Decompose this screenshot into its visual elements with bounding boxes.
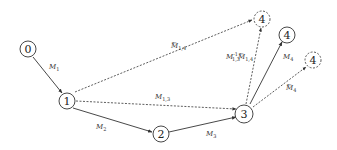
edge-label-m13inv-m14: M-11,3 ~ M1,4 — [225, 50, 253, 62]
svg-text:4: 4 — [284, 29, 291, 42]
edge-label-m13: M1,3 — [154, 93, 170, 102]
edge-3-4a-dashed — [246, 28, 261, 104]
svg-text:M4: M4 — [285, 84, 296, 93]
edge-1-2 — [73, 108, 152, 132]
svg-text:M3: M3 — [205, 130, 216, 139]
svg-text:3: 3 — [241, 108, 248, 121]
edge-label-m4: M4 — [282, 53, 293, 62]
svg-text:M1: M1 — [48, 63, 59, 72]
svg-text:M1,4: M1,4 — [237, 53, 253, 62]
svg-text:M1,3: M1,3 — [154, 93, 170, 102]
svg-text:M2: M2 — [95, 123, 106, 132]
edge-label-m2: M2 — [95, 123, 106, 132]
node-1: 1 — [59, 93, 75, 109]
edge-2-3 — [169, 117, 236, 132]
diagram-canvas: 0 1 2 3 4 4 4 M1 M2 — [0, 0, 337, 150]
edge-label-m1: M1 — [48, 63, 59, 72]
svg-text:M1,4: M1,4 — [170, 42, 186, 51]
node-4-dashed-top: 4 — [254, 11, 270, 27]
edges — [33, 20, 306, 132]
svg-text:1: 1 — [64, 95, 71, 108]
node-0: 0 — [20, 41, 36, 57]
svg-text:4: 4 — [259, 13, 266, 26]
edge-1-3-dashed — [76, 101, 236, 109]
edge-label-m3: M3 — [205, 130, 216, 139]
node-4-solid: 4 — [279, 27, 295, 43]
edge-3-4b-solid — [250, 42, 282, 104]
node-3: 3 — [235, 105, 253, 123]
edge-label-m14-tilde: ~ M1,4 — [170, 39, 186, 51]
svg-text:4: 4 — [310, 54, 317, 67]
svg-text:M4: M4 — [282, 53, 293, 62]
node-4-dashed-right: 4 — [305, 52, 321, 68]
edge-3-4c-dashed — [253, 67, 306, 107]
edge-0-1 — [33, 57, 62, 93]
svg-text:2: 2 — [158, 128, 165, 141]
graph-svg: 0 1 2 3 4 4 4 M1 M2 — [0, 0, 337, 150]
svg-text:0: 0 — [25, 43, 32, 56]
edge-label-m4-tilde: ~ M4 — [285, 81, 296, 93]
node-2: 2 — [153, 126, 169, 142]
